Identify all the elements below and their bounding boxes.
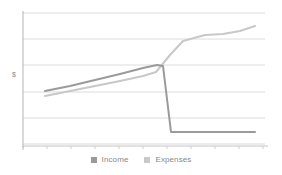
legend-item-expenses[interactable]: Expenses xyxy=(144,155,191,165)
chart-container: $ Income Expenses xyxy=(0,0,282,175)
legend-item-income[interactable]: Income xyxy=(91,155,129,165)
legend-swatch-income xyxy=(91,157,97,163)
line-chart-plot xyxy=(0,0,282,175)
legend-swatch-expenses xyxy=(144,157,150,163)
series-line-income xyxy=(45,65,255,132)
legend-label-income: Income xyxy=(102,155,129,165)
legend-label-expenses: Expenses xyxy=(155,155,191,165)
series-line-expenses xyxy=(45,26,255,96)
x-axis xyxy=(23,146,268,150)
chart-legend: Income Expenses xyxy=(0,152,282,168)
y-axis-unit-label: $ xyxy=(12,70,16,79)
